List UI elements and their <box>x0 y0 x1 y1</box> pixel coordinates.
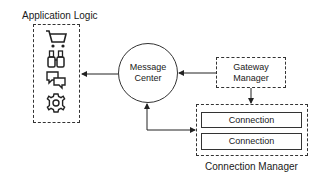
message-center-node: Message Center <box>118 43 178 103</box>
application-logic-title: Application Logic <box>22 10 98 21</box>
chat-bubbles-icon <box>44 70 68 90</box>
gateway-manager-label-line2: Manager <box>233 73 269 84</box>
message-center-label-line1: Message <box>130 62 167 73</box>
gear-icon <box>44 93 68 113</box>
connection-manager-title: Connection Manager <box>205 161 298 172</box>
gateway-manager-node: Gateway Manager <box>216 57 286 88</box>
message-center-label-line2: Center <box>130 73 167 84</box>
connection-node-2: Connection <box>201 133 302 150</box>
shopping-cart-icon <box>44 29 68 49</box>
connection-node-1: Connection <box>201 112 302 128</box>
gateway-manager-label-line1: Gateway <box>233 62 269 73</box>
binoculars-icon <box>44 49 68 69</box>
